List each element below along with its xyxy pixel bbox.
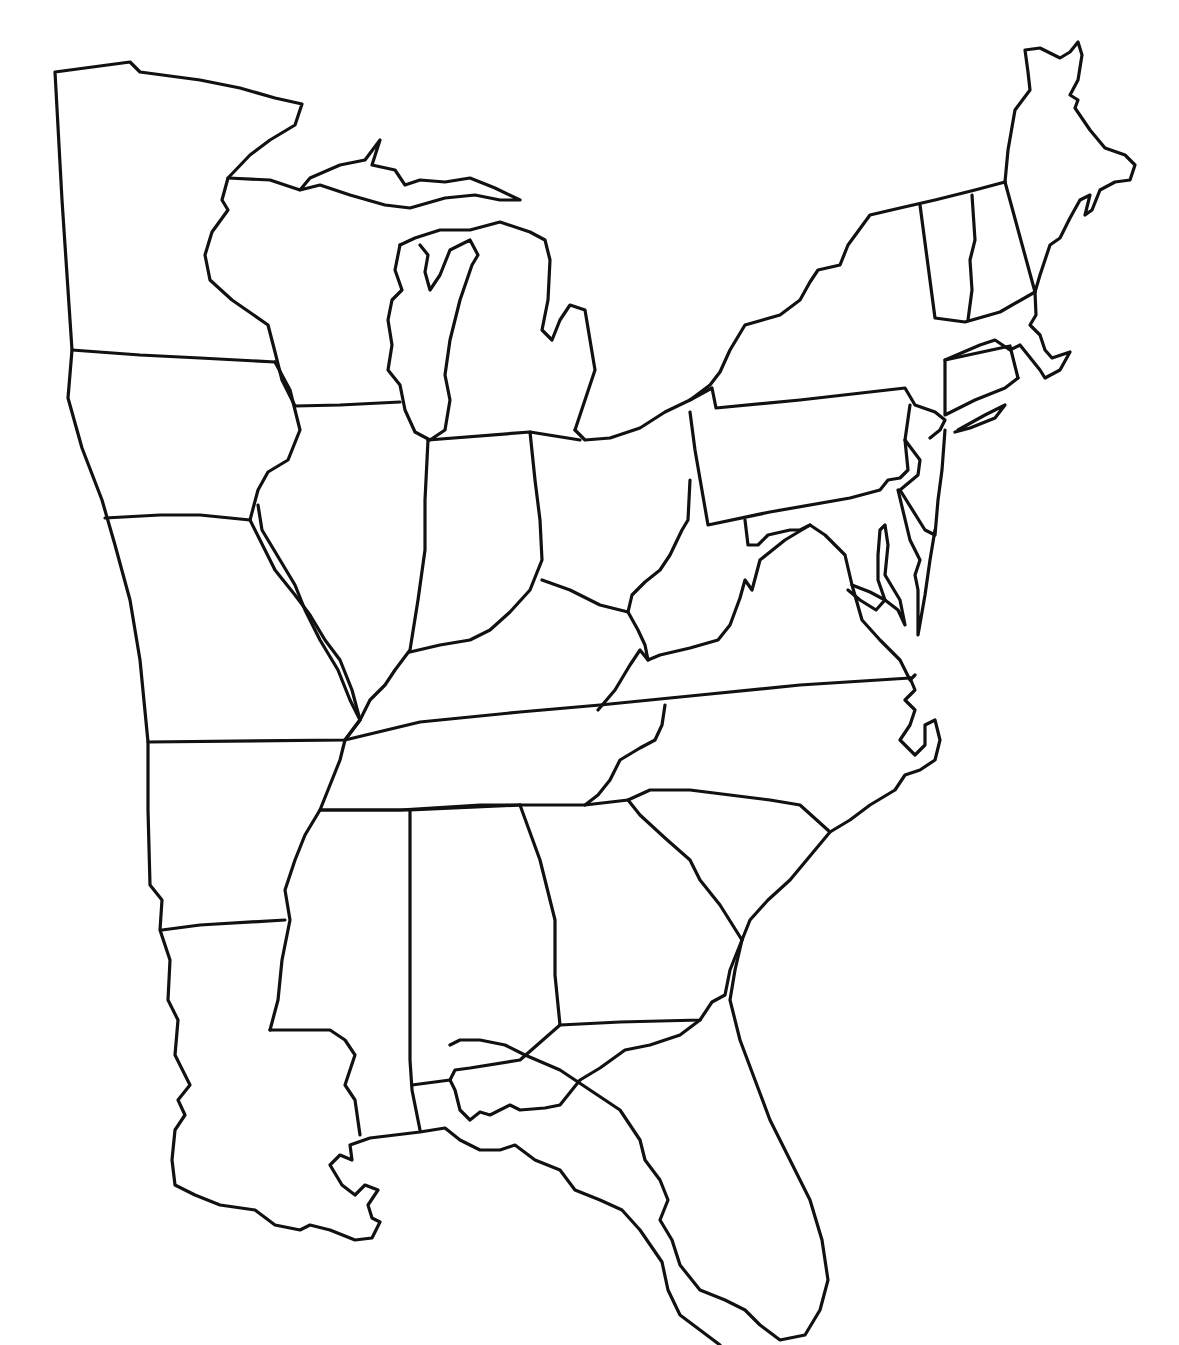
nh-vt-ma-border: [920, 182, 1035, 322]
missouri: [148, 520, 360, 742]
chesapeake-bay: [878, 525, 905, 625]
florida-panhandle: [450, 1020, 700, 1120]
pennsylvania: [690, 405, 910, 525]
wi-il-line: [295, 402, 400, 406]
ohio: [530, 432, 628, 612]
tennessee: [320, 740, 628, 810]
eastern-us-outline-map: [0, 0, 1179, 1345]
arkansas-louisiana-line: [162, 920, 285, 930]
outer-banks: [830, 678, 940, 832]
va-nc-tn-line: [345, 678, 910, 740]
iowa: [105, 362, 300, 520]
maryland-west: [745, 520, 885, 610]
atlantic-fl-coast: [450, 940, 828, 1340]
ct-ri: [945, 346, 1018, 432]
lake-michigan: [388, 240, 478, 440]
west-virginia: [628, 480, 690, 660]
lower-michigan: [400, 222, 595, 430]
south-carolina: [628, 790, 830, 940]
mississippi-state: [320, 810, 420, 1130]
indiana: [410, 432, 542, 652]
minnesota-iowa-line: [72, 350, 275, 362]
ms-la-line: [270, 1030, 360, 1135]
massachusetts: [945, 292, 1070, 415]
upper-michigan: [228, 140, 520, 208]
alabama: [410, 805, 560, 1085]
georgia: [520, 805, 742, 1025]
